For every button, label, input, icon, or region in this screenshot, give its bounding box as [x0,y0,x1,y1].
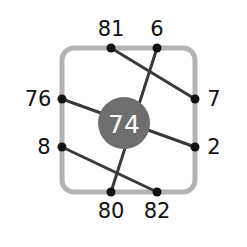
diagram-canvas: 74 816728280876 [0,0,247,247]
center-node-label: 74 [108,110,140,139]
node-dot-76[interactable] [58,95,67,104]
node-label-7: 7 [207,87,220,111]
node-label-81: 81 [98,17,125,41]
node-label-6: 6 [150,17,163,41]
edge-n8-n82 [62,147,157,192]
node-label-82: 82 [144,199,171,223]
node-dot-6[interactable] [153,44,162,53]
node-label-76: 76 [25,87,52,111]
node-label-2: 2 [207,135,220,159]
node-dot-7[interactable] [191,95,200,104]
node-label-8: 8 [37,135,50,159]
node-dot-8[interactable] [58,143,67,152]
node-link-diagram: 74 816728280876 [0,0,247,247]
node-label-80: 80 [98,199,125,223]
node-dot-2[interactable] [191,143,200,152]
node-dot-81[interactable] [107,44,116,53]
node-dot-82[interactable] [153,188,162,197]
node-dot-80[interactable] [107,188,116,197]
